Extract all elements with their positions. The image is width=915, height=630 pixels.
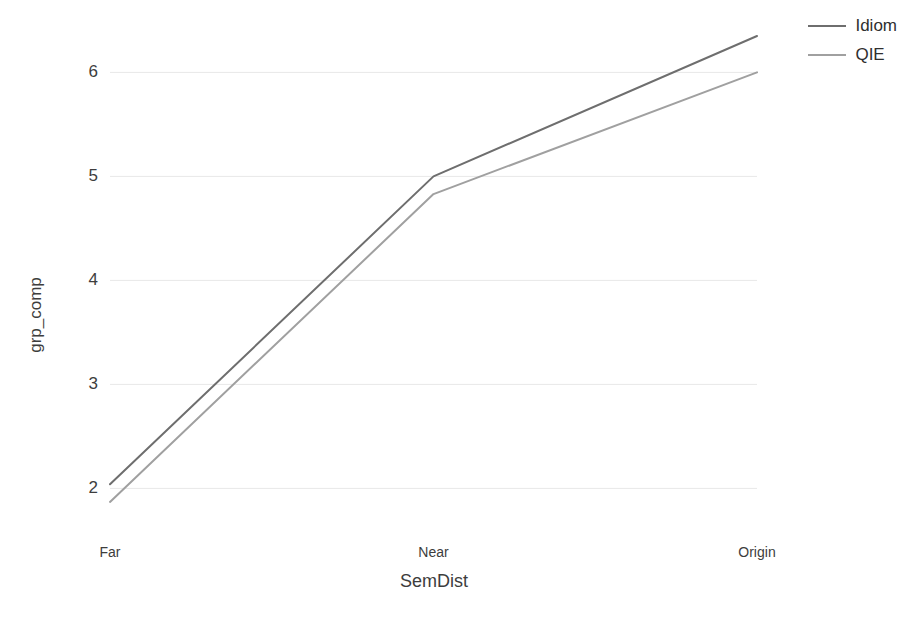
series-line-idiom xyxy=(110,36,757,484)
plot-area xyxy=(110,10,757,530)
y-axis-title: grp_comp xyxy=(26,277,46,353)
y-tick-label-2: 2 xyxy=(89,478,98,498)
legend-label: QIE xyxy=(855,45,884,65)
series-lines xyxy=(110,10,757,530)
y-axis-tick-group: 23456 xyxy=(0,0,98,630)
x-tick-label-origin: Origin xyxy=(738,544,775,560)
legend-item-qie[interactable]: QIE xyxy=(808,45,897,65)
x-tick-label-far: Far xyxy=(100,544,121,560)
y-tick-label-6: 6 xyxy=(89,62,98,82)
series-line-qie xyxy=(110,72,757,502)
y-tick-label-4: 4 xyxy=(89,270,98,290)
x-axis-title: SemDist xyxy=(400,571,468,592)
y-tick-label-3: 3 xyxy=(89,374,98,394)
line-chart: 23456 grp_comp FarNearOrigin SemDist Idi… xyxy=(0,0,915,630)
legend-label: Idiom xyxy=(855,16,897,36)
x-tick-label-near: Near xyxy=(418,544,448,560)
legend-line-swatch-icon xyxy=(808,54,846,56)
legend-item-idiom[interactable]: Idiom xyxy=(808,16,897,36)
legend: IdiomQIE xyxy=(808,16,897,65)
legend-line-swatch-icon xyxy=(808,25,846,27)
y-tick-label-5: 5 xyxy=(89,166,98,186)
